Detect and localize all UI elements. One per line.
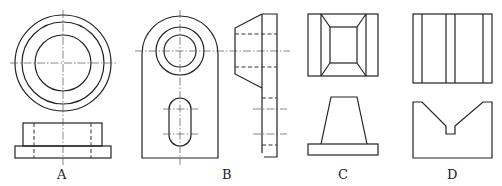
option-d-top-view xyxy=(413,14,492,83)
option-c-top-view xyxy=(308,14,378,76)
technical-drawing: A B xyxy=(0,0,502,186)
label-d: D xyxy=(447,167,457,182)
option-a-top-view xyxy=(10,10,116,165)
corner-edge-br xyxy=(357,63,366,76)
outer-rectangle xyxy=(413,14,492,83)
option-c: C xyxy=(308,14,378,182)
option-d-front-view xyxy=(413,102,492,158)
label-a: A xyxy=(56,167,67,182)
option-b-side-view xyxy=(235,14,287,157)
base-plate xyxy=(308,144,378,155)
upper-cylinder xyxy=(23,123,102,146)
frustum-trapezoid xyxy=(321,97,367,144)
corner-edge-tl xyxy=(321,14,330,27)
option-b-front-view xyxy=(135,10,290,165)
label-b: B xyxy=(222,167,232,182)
v-groove-block xyxy=(413,102,492,158)
label-c: C xyxy=(338,167,348,182)
option-a: A xyxy=(10,10,116,182)
corner-edge-tr xyxy=(357,14,366,27)
corner-edge-bl xyxy=(321,63,330,76)
option-d: D xyxy=(413,14,492,182)
outer-square xyxy=(308,14,378,76)
option-b: B xyxy=(135,10,290,182)
option-c-front-view xyxy=(308,97,378,155)
frustum-top-face xyxy=(330,27,357,63)
plate-outer-edge xyxy=(262,14,277,157)
